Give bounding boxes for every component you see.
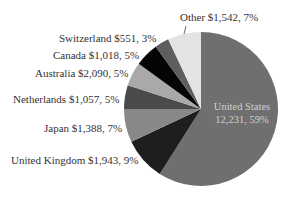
label-australia: Australia $2,090, 5%: [35, 67, 128, 79]
pie-chart: Other $1,542, 7% Switzerland $551, 3% Ca…: [0, 0, 285, 197]
label-netherlands: Netherlands $1,057, 5%: [13, 93, 119, 105]
label-switzerland: Switzerland $551, 3%: [59, 32, 156, 44]
label-canada: Canada $1,018, 5%: [53, 49, 139, 61]
label-japan: Japan $1,388, 7%: [44, 122, 122, 134]
label-united-states-value: 12,231, 59%: [215, 114, 269, 125]
other-leader-line: [184, 26, 186, 34]
label-other: Other $1,542, 7%: [180, 11, 258, 23]
label-united-kingdom: United Kingdom $1,943, 9%: [11, 154, 138, 166]
label-united-states: United States: [214, 101, 270, 112]
